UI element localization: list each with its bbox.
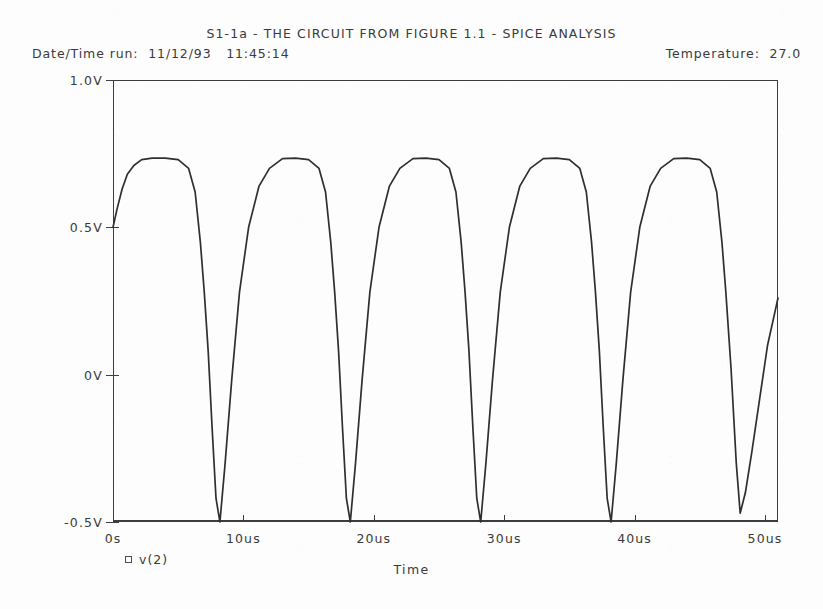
x-axis-label: 20us [356, 531, 391, 546]
x-axis-label: 40us [617, 531, 652, 546]
page-title: S1-1a - THE CIRCUIT FROM FIGURE 1.1 - SP… [0, 26, 823, 41]
temperature-label: Temperature: 27.0 [666, 46, 801, 61]
y-axis-tick [106, 522, 113, 523]
y-axis-tick-inner [113, 522, 119, 523]
y-axis-tick [106, 80, 113, 81]
plot-area: -0.5V0V0.5V1.0V 0s10us20us30us40us50us [113, 80, 778, 522]
y-axis-label: 0.5V [70, 220, 103, 235]
waveform-trace [113, 80, 778, 522]
y-axis-label: 1.0V [70, 73, 103, 88]
trace-path-v2 [113, 158, 778, 522]
x-axis-label: 50us [748, 531, 783, 546]
x-axis-label: 30us [487, 531, 522, 546]
spice-plot-screen: S1-1a - THE CIRCUIT FROM FIGURE 1.1 - SP… [0, 0, 823, 609]
datetime-run-label: Date/Time run: 11/12/93 11:45:14 [32, 46, 290, 61]
y-axis-label: -0.5V [64, 515, 103, 530]
y-axis-tick [106, 375, 113, 376]
y-axis-label: 0V [84, 367, 103, 382]
x-axis-title: Time [0, 562, 823, 577]
x-axis-label: 0s [105, 531, 122, 546]
x-axis-label: 10us [226, 531, 261, 546]
y-axis-tick [106, 227, 113, 228]
